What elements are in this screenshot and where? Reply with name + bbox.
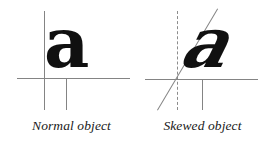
skewed-vertical-reference-axis	[177, 11, 178, 110]
normal-letter-a-glyph: a	[44, 8, 89, 78]
caption-normal-object: Normal object	[3, 118, 140, 134]
skew-illustration-figure: a Normal object a Skewed object	[0, 0, 275, 147]
skewed-letter-a-glyph: a	[172, 8, 252, 78]
caption-skewed-object: Skewed object	[134, 118, 271, 134]
skewed-stem-guide-line	[202, 80, 203, 110]
